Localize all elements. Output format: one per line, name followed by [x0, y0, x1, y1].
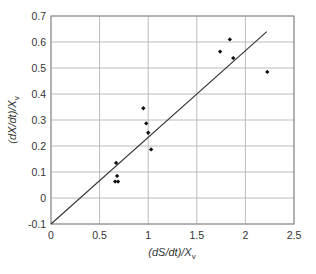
y-tick-label: 0.6 — [31, 36, 46, 48]
data-point-diamond — [149, 147, 153, 151]
y-tick-label: 0.4 — [31, 88, 46, 100]
x-tick-label: 0 — [48, 229, 54, 241]
data-point-diamond — [141, 106, 145, 110]
x-axis-ticks: 00.511.522.5 — [48, 229, 301, 241]
y-tick-label: 0.3 — [31, 114, 46, 126]
x-tick-label: 1 — [145, 229, 151, 241]
y-tick-label: 0 — [40, 192, 46, 204]
data-point-diamond — [218, 49, 222, 53]
data-point-diamond — [115, 174, 119, 178]
trendline — [51, 32, 267, 224]
x-axis-title: (dS/dt)/Xv — [148, 246, 195, 261]
y-axis-ticks: -0.100.10.20.30.40.50.60.7 — [28, 10, 46, 230]
y-tick-label: 0.2 — [31, 140, 46, 152]
x-tick-label: 1.5 — [189, 229, 204, 241]
grid-lines — [51, 16, 294, 224]
y-tick-label: 0.1 — [31, 166, 46, 178]
data-point-diamond — [228, 37, 232, 41]
data-points — [113, 37, 270, 184]
y-tick-label: 0.7 — [31, 10, 46, 22]
data-point-diamond — [146, 131, 150, 135]
x-tick-label: 2 — [242, 229, 248, 241]
data-point-diamond — [265, 70, 269, 74]
y-axis-title: (dX/dt)/Xv — [6, 96, 21, 143]
x-tick-label: 2.5 — [287, 229, 302, 241]
data-point-diamond — [116, 179, 120, 183]
y-tick-label: 0.5 — [31, 62, 46, 74]
x-tick-label: 0.5 — [92, 229, 107, 241]
scatter-chart: -0.100.10.20.30.40.50.60.7 00.511.522.5 … — [0, 0, 316, 274]
y-tick-label: -0.1 — [28, 218, 46, 230]
